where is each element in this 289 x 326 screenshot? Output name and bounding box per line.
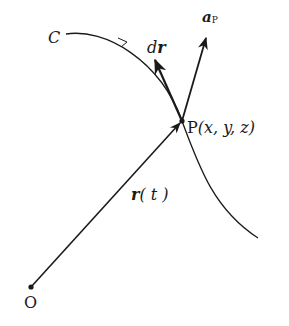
a-p-subscript: P [212,15,218,25]
a-p-label: aP [202,8,218,26]
position-vector-label: r( t ) [131,185,169,204]
point-p-dot [179,118,184,123]
vector-a-p [182,38,206,121]
position-vector-arg: ( t ) [139,185,168,204]
point-p-label: P(x, y, z) [187,118,255,137]
curve-label: C [48,28,60,47]
point-p-name: P [187,118,198,137]
diagram-canvas: C dr aP P(x, y, z) r( t ) O [0,0,289,326]
differential-vector-dr [155,60,182,121]
diagram-svg: C dr aP P(x, y, z) r( t ) O [0,0,289,326]
svg-text:dr: dr [147,38,167,57]
svg-text:r( t ): r( t ) [131,185,169,204]
origin-dot [28,284,33,289]
differential-main: r [157,38,167,57]
origin-label: O [24,293,37,312]
a-p-main: a [202,8,212,26]
differential-label: dr [147,38,167,57]
differential-prefix: d [147,38,157,57]
svg-text:P(x, y, z): P(x, y, z) [187,118,255,137]
point-p-coords: (x, y, z) [198,118,255,137]
svg-text:aP: aP [202,8,218,26]
position-vector-r [31,123,180,287]
